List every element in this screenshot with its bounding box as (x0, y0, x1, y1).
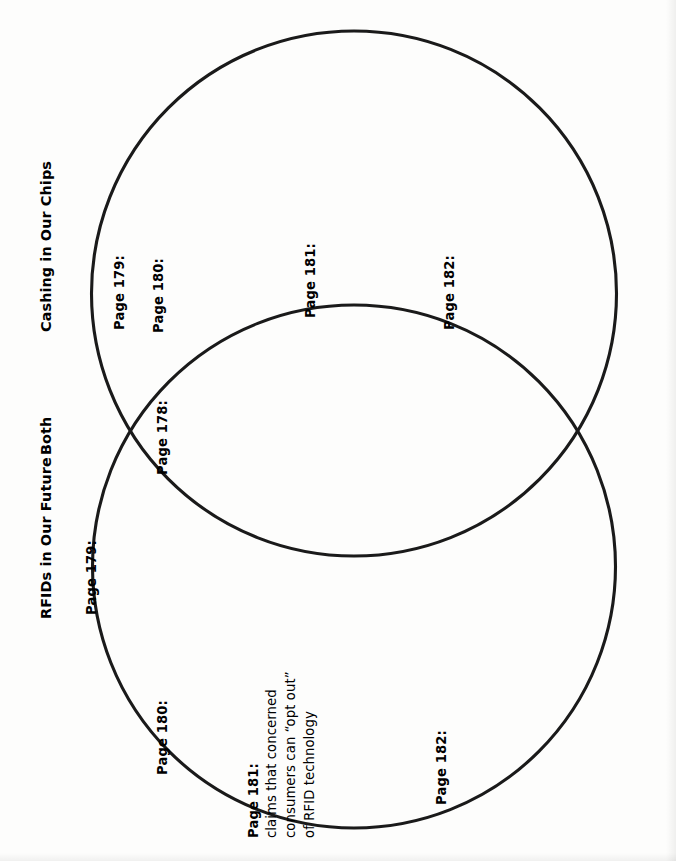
worksheet-page: Cashing in Our Chips Both RFIDs in Our F… (0, 0, 676, 861)
entry-cashing-page-179: Page 179: (112, 255, 127, 330)
entry-both-page-178: Page 178: (155, 400, 170, 475)
heading-cashing-in-our-chips: Cashing in Our Chips (38, 161, 55, 332)
entry-rfids-page-182: Page 182: (434, 730, 449, 805)
entry-cashing-page-182: Page 182: (442, 255, 457, 330)
entry-rfids-page-181-line-3: of RFID technology (302, 711, 317, 838)
entry-cashing-page-180: Page 180: (151, 258, 166, 333)
entry-rfids-page-180: Page 180: (155, 700, 170, 775)
entry-cashing-page-181: Page 181: (303, 243, 318, 318)
heading-both: Both (38, 417, 55, 455)
venn-circle-cashing-in-our-chips (92, 31, 617, 556)
entry-rfids-page-181-line-1: claims that concerned (264, 689, 279, 838)
venn-diagram-svg (0, 0, 676, 861)
entry-rfids-page-181: Page 181: (246, 763, 261, 838)
heading-rfids-in-our-future: RFIDs in Our Future (38, 457, 55, 619)
entry-rfids-page-181-line-2: consumers can “opt out” (283, 671, 298, 838)
entry-rfids-page-179: Page 179: (84, 540, 99, 615)
venn-circle-rfids-in-our-future (93, 305, 616, 828)
entry-rfids-page-181-label: Page 181: (246, 763, 261, 838)
